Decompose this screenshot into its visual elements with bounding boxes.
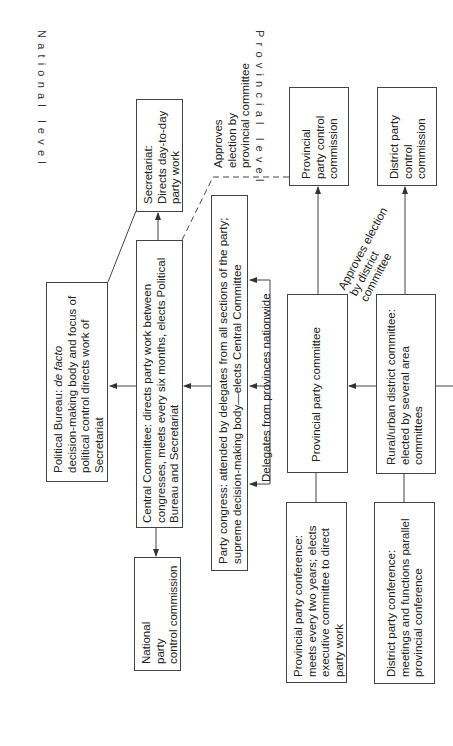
provincial-committee-box: Provincial party committee — [287, 294, 348, 473]
district-conference-box: District party conference: meetings and … — [374, 502, 435, 684]
provincial-conference-text: Provincial party conference: meets every… — [292, 526, 346, 677]
provincial-level-label: Provincial level — [253, 30, 266, 187]
provincial-committee-text: Provincial party committee — [310, 327, 324, 462]
delegates-label: Delegates from provinces nationwide — [260, 293, 274, 482]
district-committee-text: Rural/urban district committee: elected … — [385, 309, 426, 465]
provincial-control-commission-box: Provincial party control commission — [289, 87, 349, 186]
district-conference-text: District party conference: meetings and … — [385, 518, 426, 677]
district-control-commission-text: District party control commission — [388, 115, 429, 179]
party-congress-text: Party congress: attended by delegates fr… — [217, 218, 244, 564]
central-committee-text: Central Committee: directs party work be… — [141, 258, 182, 523]
district-control-commission-box: District party control commission — [377, 87, 437, 186]
national-level-label: National level — [35, 30, 48, 169]
central-committee-box: Central Committee: directs party work be… — [136, 240, 183, 528]
provincial-control-commission-text: Provincial party control commission — [300, 116, 341, 179]
secretariat-text: Secretariat: Directs day-to-day party wo… — [142, 111, 183, 204]
political-bureau-text: Political Bureau: de facto decision-maki… — [52, 296, 106, 473]
national-control-commission-box: National party control commission — [134, 557, 181, 671]
political-bureau-box: Political Bureau: de facto decision-maki… — [46, 282, 108, 482]
provincial-conference-box: Provincial party conference: meets every… — [286, 502, 347, 683]
secretariat-box: Secretariat: Directs day-to-day party wo… — [136, 99, 183, 212]
political-bureau-title: Political Bureau: — [52, 387, 64, 473]
party-congress-box: Party congress: attended by delegates fr… — [211, 195, 248, 571]
national-control-commission-text: National party control commission — [140, 566, 181, 664]
political-bureau-rest: decision-making body and focus of politi… — [66, 296, 105, 473]
approves-provincial-label: Approves election by provincial committe… — [212, 63, 253, 168]
district-committee-box: Rural/urban district committee: elected … — [376, 294, 436, 474]
political-bureau-italic: de facto — [52, 346, 64, 387]
